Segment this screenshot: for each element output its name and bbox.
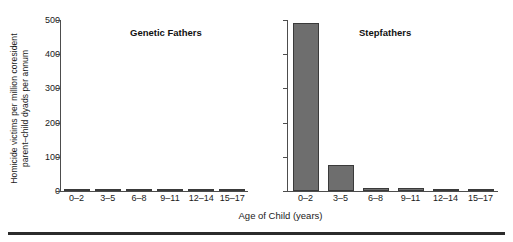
bar-genetic-fathers-9–11	[157, 189, 183, 191]
x-tick-label-stepfathers-0: 0–2	[291, 193, 321, 204]
x-tick-label-genetic-fathers-3: 9–11	[155, 193, 185, 204]
x-tick-label-stepfathers-2: 6–8	[361, 193, 391, 204]
plot-area-stepfathers	[288, 20, 498, 191]
x-tick-label-genetic-fathers-1: 3–5	[93, 193, 123, 204]
figure: Homicide victims per million coresident …	[0, 0, 513, 242]
bar-stepfathers-3–5	[328, 165, 354, 191]
x-tick-label-stepfathers-5: 15–17	[466, 193, 496, 204]
y-tick-100	[56, 157, 60, 158]
bar-genetic-fathers-15–17	[219, 189, 245, 191]
x-tick-label-genetic-fathers-0: 0–2	[62, 193, 92, 204]
panel-title-stepfathers: Stepfathers	[359, 27, 411, 38]
y-tick-400	[56, 54, 60, 55]
bar-group-genetic-fathers	[61, 20, 248, 191]
x-tick-label-stepfathers-4: 12–14	[431, 193, 461, 204]
panel-genetic-fathers: 0–23–56–89–1112–1415–17 Genetic Fathers	[60, 0, 250, 242]
x-axis-tick-labels-left: 0–23–56–89–1112–1415–17	[61, 193, 248, 207]
bar-genetic-fathers-0–2	[64, 189, 90, 191]
y-tick-300	[56, 88, 60, 89]
plot-area-genetic-fathers	[61, 20, 248, 191]
y-tick-300	[283, 88, 287, 89]
bar-stepfathers-9–11	[398, 188, 424, 191]
x-tick-label-stepfathers-3: 9–11	[396, 193, 426, 204]
bar-genetic-fathers-3–5	[95, 189, 121, 191]
y-axis-title: Homicide victims per million coresident …	[9, 14, 30, 204]
x-tick-label-genetic-fathers-5: 15–17	[217, 193, 247, 204]
bar-stepfathers-6–8	[363, 188, 389, 191]
panel-stepfathers: 0–23–56–89–1112–1415–17 Stepfathers	[287, 0, 500, 242]
bar-genetic-fathers-12–14	[188, 189, 214, 191]
y-axis-tick-labels: 500 400 300 200 100 0	[34, 0, 60, 242]
x-axis-tick-labels-right: 0–23–56–89–1112–1415–17	[288, 193, 498, 207]
y-tick-500	[56, 20, 60, 21]
bar-stepfathers-15–17	[468, 189, 494, 191]
bar-group-stepfathers	[288, 20, 498, 191]
y-tick-400	[283, 54, 287, 55]
bar-stepfathers-12–14	[433, 189, 459, 191]
x-tick-label-genetic-fathers-4: 12–14	[186, 193, 216, 204]
x-axis-line-left	[60, 191, 248, 192]
x-tick-label-genetic-fathers-2: 6–8	[124, 193, 154, 204]
bottom-rule	[8, 232, 505, 235]
x-axis-line-right	[287, 191, 498, 192]
y-tick-100	[283, 157, 287, 158]
y-tick-500	[283, 20, 287, 21]
y-tick-200	[56, 123, 60, 124]
bar-stepfathers-0–2	[293, 23, 319, 191]
bar-genetic-fathers-6–8	[126, 189, 152, 191]
y-tick-200	[283, 123, 287, 124]
x-tick-label-stepfathers-1: 3–5	[326, 193, 356, 204]
panel-title-genetic-fathers: Genetic Fathers	[130, 27, 202, 38]
